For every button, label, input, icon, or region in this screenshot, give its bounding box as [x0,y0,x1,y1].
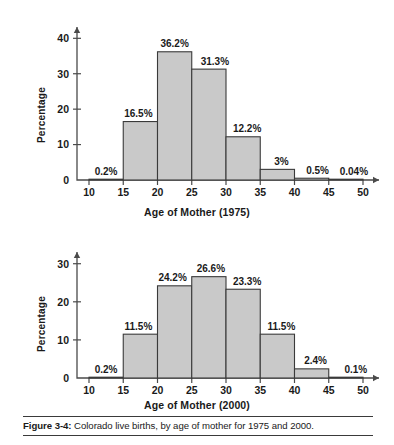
svg-text:40: 40 [289,384,301,394]
caption-figure-number: Figure 3-4: [23,420,72,431]
bar-value-label: 0.2% [95,364,118,375]
svg-text:30: 30 [57,258,69,270]
svg-text:15: 15 [117,384,129,394]
x-axis-title-1975: Age of Mother (1975) [0,206,394,218]
histogram-bar [260,334,294,378]
svg-text:40: 40 [289,186,301,198]
bar-value-label: 0.04% [340,166,368,177]
bar-value-label: 16.5% [124,108,152,119]
figure-caption: Figure 3-4: Colorado live births, by age… [23,416,373,436]
svg-text:10: 10 [57,334,69,346]
svg-text:50: 50 [357,384,369,394]
histogram-2000: 01020301015202530354045500.2%11.5%24.2%2… [0,222,394,412]
histogram-1975: 0102030401015202530354045500.2%16.5%36.2… [0,0,394,225]
svg-text:35: 35 [254,186,266,198]
bar-value-label: 31.3% [201,56,229,67]
svg-text:10: 10 [83,186,95,198]
bar-value-label: 0.5% [306,165,329,176]
svg-text:35: 35 [254,384,266,394]
svg-text:15: 15 [117,186,129,198]
svg-text:45: 45 [323,186,335,198]
histogram-bar [192,277,226,378]
bar-value-label: 24.2% [158,272,186,283]
x-axis-title-2000: Age of Mother (2000) [0,399,394,411]
histogram-bar [260,169,294,180]
svg-text:25: 25 [186,186,198,198]
histogram-bar [123,334,157,378]
histogram-bar [123,122,157,180]
svg-text:20: 20 [152,384,164,394]
bar-value-label: 26.6% [197,263,225,274]
histogram-bar [329,179,363,180]
histogram-bar [329,377,363,378]
histogram-bar [192,69,226,180]
bar-value-label: 0.1% [344,364,367,375]
histogram-1975-plot: 0102030401015202530354045500.2%16.5%36.2… [0,0,394,200]
svg-text:30: 30 [220,384,232,394]
histogram-bar [295,178,329,180]
histogram-bar [158,52,192,180]
svg-text:45: 45 [323,384,335,394]
svg-text:0: 0 [63,372,69,384]
bar-value-label: 3% [274,156,289,167]
svg-text:20: 20 [152,186,164,198]
caption-line: Figure 3-4: Colorado live births, by age… [23,417,373,433]
svg-text:25: 25 [186,384,198,394]
bar-value-label: 23.3% [233,276,261,287]
svg-text:10: 10 [83,384,95,394]
histogram-bar [158,286,192,378]
svg-text:30: 30 [57,68,69,80]
bar-value-label: 0.2% [95,166,118,177]
histogram-bar [89,179,123,180]
histogram-2000-plot: 01020301015202530354045500.2%11.5%24.2%2… [0,222,394,394]
svg-text:20: 20 [57,296,69,308]
y-axis-title-1975: Percentage [36,87,47,143]
bar-value-label: 2.4% [304,355,327,366]
bar-value-label: 12.2% [233,123,261,134]
bar-value-label: 36.2% [160,38,188,49]
figure-3-4: 0102030401015202530354045500.2%16.5%36.2… [0,0,394,445]
caption-rule-bottom [23,435,373,436]
bar-value-label: 11.5% [124,321,152,332]
caption-description: Colorado live births, by age of mother f… [72,420,314,431]
svg-text:30: 30 [220,186,232,198]
y-axis-title-2000: Percentage [36,296,47,352]
svg-text:40: 40 [57,32,69,44]
svg-text:50: 50 [357,186,369,198]
histogram-bar [226,289,260,378]
svg-text:10: 10 [57,138,69,150]
histogram-bar [295,369,329,378]
svg-text:20: 20 [57,103,69,115]
histogram-bar [89,377,123,378]
bar-value-label: 11.5% [267,321,295,332]
svg-text:0: 0 [63,174,69,186]
histogram-bar [226,137,260,180]
